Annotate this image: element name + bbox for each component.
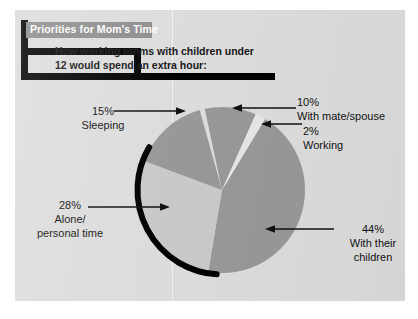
callout-percent: 2% bbox=[303, 124, 343, 138]
callout-description: Working bbox=[303, 138, 343, 152]
callout-alone-personal-time: 28% Alone/ personal time bbox=[22, 198, 118, 240]
callout-with-their-children: 44% With their children bbox=[336, 222, 410, 264]
callout-working: 2% Working bbox=[303, 124, 343, 152]
callout-percent: 28% bbox=[22, 198, 118, 212]
infographic-page: Priorities for Mom's Time How working mo… bbox=[0, 0, 418, 319]
callout-description-2: children bbox=[336, 250, 410, 264]
arrow-head-sleeping bbox=[176, 107, 186, 115]
pie-chart-svg bbox=[0, 0, 418, 319]
callout-percent: 44% bbox=[336, 222, 410, 236]
callout-with-mate-spouse: 10% With mate/spouse bbox=[297, 95, 385, 123]
callout-description: With mate/spouse bbox=[297, 109, 385, 123]
callout-description: Sleeping bbox=[66, 118, 140, 132]
pie-chart bbox=[0, 0, 418, 319]
callout-description: Alone/ bbox=[22, 212, 118, 226]
callout-description: With their bbox=[336, 236, 410, 250]
callout-percent: 10% bbox=[297, 95, 385, 109]
callout-description-2: personal time bbox=[22, 226, 118, 240]
callout-sleeping: 15% Sleeping bbox=[66, 104, 140, 132]
callout-percent: 15% bbox=[66, 104, 140, 118]
